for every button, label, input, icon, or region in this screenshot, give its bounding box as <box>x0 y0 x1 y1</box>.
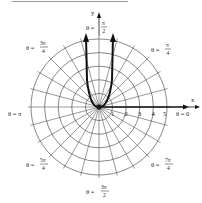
r-tick-2: 2 <box>125 110 128 117</box>
polar-graph: y x θ = π 2 θ = π 4 θ = 3π 4 θ = π θ = 0 <box>0 0 202 203</box>
theta-den: 2 <box>103 192 106 198</box>
label-theta-pi-4: θ = π 4 <box>151 42 171 56</box>
grid-radial-line <box>64 46 100 107</box>
grid-radial-line <box>99 107 135 168</box>
theta-num: 7π <box>165 157 171 163</box>
label-theta-pi-2: θ = π 2 <box>86 20 107 34</box>
y-axis-arrow-icon <box>97 12 101 18</box>
theta-prefix: θ = <box>151 161 160 168</box>
label-theta-7pi-4: θ = 7π 4 <box>151 157 173 171</box>
y-axis-label: y <box>91 9 95 16</box>
grid-radial-line <box>99 72 160 108</box>
theta-den: 4 <box>167 50 170 56</box>
theta-prefix: θ = <box>86 24 95 31</box>
theta-den: 4 <box>167 165 170 171</box>
theta-num: π <box>102 20 105 26</box>
theta-prefix: θ = <box>26 44 35 51</box>
theta-den: 2 <box>103 28 106 34</box>
label-theta-5pi-4: θ = 5π 4 <box>26 157 48 171</box>
theta-num: 5π <box>40 157 46 163</box>
theta-den: 4 <box>42 165 45 171</box>
theta-num: 3π <box>101 184 107 190</box>
theta-num: 3π <box>40 40 46 46</box>
grid-radial-line <box>64 107 100 168</box>
curve-arrow-left-icon <box>83 33 89 42</box>
theta-prefix: θ = <box>26 161 35 168</box>
polar-curve <box>83 33 116 110</box>
x-axis-label: x <box>191 96 195 103</box>
r-tick-1: 1 <box>111 110 114 117</box>
r-tick-5: 5 <box>163 110 166 117</box>
theta-prefix: θ = <box>86 188 95 195</box>
grid-radial-line <box>38 107 99 143</box>
pole-dot <box>97 105 102 110</box>
label-theta-0: θ = 0 <box>176 110 189 117</box>
grid-radial-line <box>99 46 135 107</box>
label-theta-3pi-4: θ = 3π 4 <box>26 40 48 54</box>
label-theta-3pi-2: θ = 3π 2 <box>86 184 109 198</box>
grid-radial-line <box>38 72 99 108</box>
grid-radial-line <box>49 107 99 157</box>
theta-prefix: θ = <box>151 46 160 53</box>
x-axis-arrow-icon <box>195 105 200 109</box>
theta-den: 4 <box>42 48 45 54</box>
r-tick-4: 4 <box>152 110 156 117</box>
r-tick-3: 3 <box>138 110 141 117</box>
theta-num: π <box>166 42 169 48</box>
label-theta-pi: θ = π <box>8 110 22 117</box>
curve-path <box>86 36 113 107</box>
curve-arrow-right-icon <box>110 33 116 42</box>
